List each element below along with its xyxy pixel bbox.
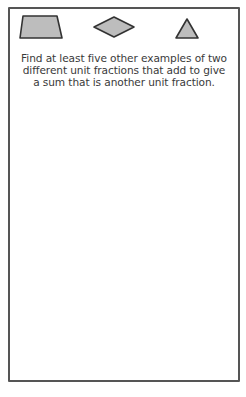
task-prompt: Find at least five other examples of two… [20, 52, 228, 89]
shape-row [10, 9, 238, 49]
trapezoid-icon [20, 16, 62, 38]
triangle-icon [176, 19, 198, 38]
task-card: Find at least five other examples of two… [8, 7, 240, 382]
shape-icons [10, 9, 238, 49]
rhombus-icon [94, 17, 134, 37]
